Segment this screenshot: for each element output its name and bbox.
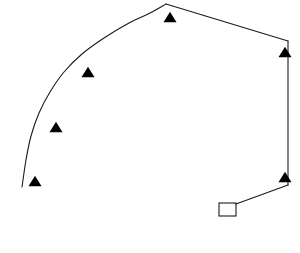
arc-path [22,4,166,187]
triangle-marker [164,12,177,23]
triangle-marker [29,176,42,187]
triangle-marker [279,47,292,58]
upper-right-segment [166,4,288,41]
shape-diagram [0,0,300,253]
outline-group [22,4,288,204]
open-square [219,203,236,216]
diagram-canvas [0,0,300,253]
triangle-marker [279,172,292,183]
triangle-marker-group [29,12,292,187]
lower-diagonal-segment [236,185,288,204]
square-annotation-group [219,203,236,216]
triangle-marker [50,122,63,133]
triangle-marker [82,67,95,78]
